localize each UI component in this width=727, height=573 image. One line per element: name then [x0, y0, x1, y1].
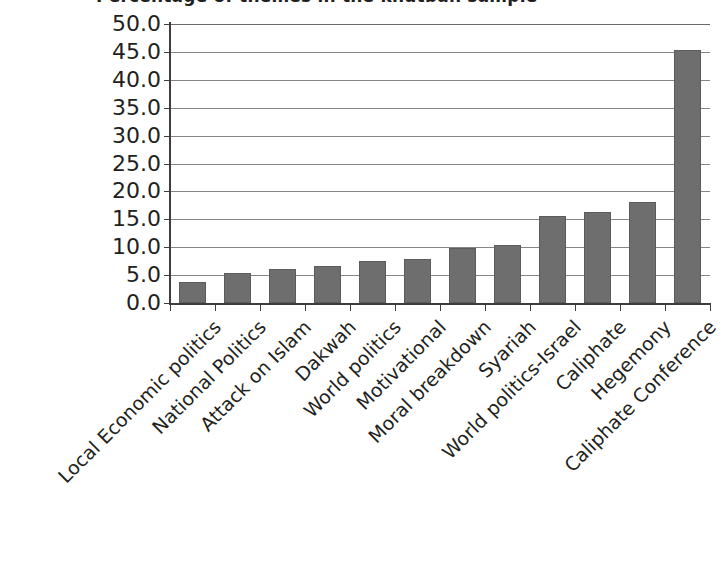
bar[interactable]: [584, 212, 611, 304]
x-axis-tick: [170, 303, 171, 311]
x-axis-tick: [260, 303, 261, 311]
bar-chart: Percentage of themes in the khutbah samp…: [0, 0, 727, 573]
x-axis-tick: [395, 303, 396, 311]
bar-slot: [305, 24, 350, 303]
bar-slot: [170, 24, 215, 303]
x-axis-tick: [350, 303, 351, 311]
bar[interactable]: [539, 216, 566, 303]
bar-slot: [530, 24, 575, 303]
bar-slot: [575, 24, 620, 303]
bar[interactable]: [314, 266, 341, 303]
bar[interactable]: [674, 50, 701, 303]
bar[interactable]: [404, 259, 431, 303]
x-axis-tick: [485, 303, 486, 311]
bar-slot: [485, 24, 530, 303]
y-axis-tick-label: 30.0: [112, 125, 161, 147]
y-axis-tick-label: 50.0: [112, 13, 161, 35]
x-axis-tick: [575, 303, 576, 311]
x-axis-tick: [710, 303, 711, 311]
bar-slot: [440, 24, 485, 303]
bar-slot: [350, 24, 395, 303]
x-axis-tick: [440, 303, 441, 311]
bar[interactable]: [629, 202, 656, 303]
bar[interactable]: [269, 269, 296, 303]
bar[interactable]: [179, 282, 206, 303]
y-axis-tick-label: 5.0: [126, 264, 161, 286]
bar-slot: [260, 24, 305, 303]
x-axis-tick: [530, 303, 531, 311]
y-axis-tick-label: 10.0: [112, 236, 161, 258]
y-axis-tick-label: 20.0: [112, 180, 161, 202]
y-axis-tick-label: 40.0: [112, 69, 161, 91]
y-axis-tick-label: 25.0: [112, 153, 161, 175]
bar[interactable]: [359, 261, 386, 303]
bar[interactable]: [224, 273, 251, 303]
x-axis-tick: [665, 303, 666, 311]
bar[interactable]: [494, 245, 521, 303]
x-axis-tick: [305, 303, 306, 311]
bar-slot: [620, 24, 665, 303]
bar-slot: [665, 24, 710, 303]
x-axis-tick: [620, 303, 621, 311]
y-axis-tick-label: 0.0: [126, 292, 161, 314]
bar-slot: [215, 24, 260, 303]
bar-slot: [395, 24, 440, 303]
y-axis-tick-label: 35.0: [112, 97, 161, 119]
chart-title: Percentage of themes in the khutbah samp…: [96, 0, 537, 6]
bar-series: [170, 24, 710, 303]
bar[interactable]: [449, 248, 476, 303]
plot-area: 50.045.040.035.030.025.020.015.010.05.00…: [170, 24, 710, 303]
chart-title-clipped: Percentage of themes in the khutbah samp…: [0, 0, 727, 9]
y-axis-tick-label: 15.0: [112, 208, 161, 230]
y-axis-tick-label: 45.0: [112, 41, 161, 63]
x-axis-tick: [215, 303, 216, 311]
